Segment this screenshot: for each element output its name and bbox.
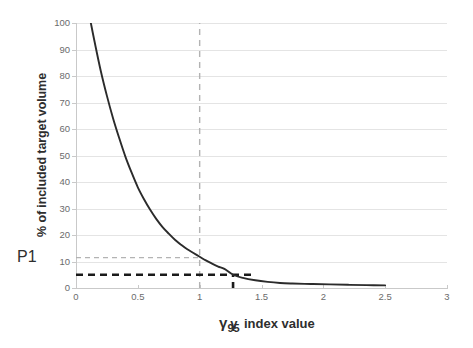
y-tick-label: 10 xyxy=(40,257,70,267)
x-tick-label: 2 xyxy=(306,292,340,302)
x-tick-label: 0.5 xyxy=(121,292,155,302)
y-tick-label: 20 xyxy=(40,230,70,240)
plot-area xyxy=(76,23,447,288)
x-axis-title: γ index value xyxy=(0,316,473,331)
y-tick-label: 40 xyxy=(40,177,70,187)
data-curve xyxy=(91,23,385,285)
x-tick-label: 1.5 xyxy=(245,292,279,302)
x-tick-label: 1 xyxy=(183,292,217,302)
y-tick-label: 60 xyxy=(40,124,70,134)
x-tick-label: 2.5 xyxy=(368,292,402,302)
y-tick-label: 70 xyxy=(40,98,70,108)
y-tick-label: 80 xyxy=(40,71,70,81)
y-tick-label: 90 xyxy=(40,45,70,55)
y-tick-label: 50 xyxy=(40,151,70,161)
gamma-index-chart: % of included target volume 010203040506… xyxy=(0,0,473,348)
x-axis-title-text: γ index value xyxy=(158,316,315,331)
y-tick-label: 30 xyxy=(40,204,70,214)
x-tick-label: 3 xyxy=(430,292,464,302)
x-tick-label: 0 xyxy=(59,292,93,302)
x-tick-mark xyxy=(447,285,448,289)
p1-annotation-label: P1 xyxy=(17,248,37,266)
y-tick-label: 100 xyxy=(40,18,70,28)
